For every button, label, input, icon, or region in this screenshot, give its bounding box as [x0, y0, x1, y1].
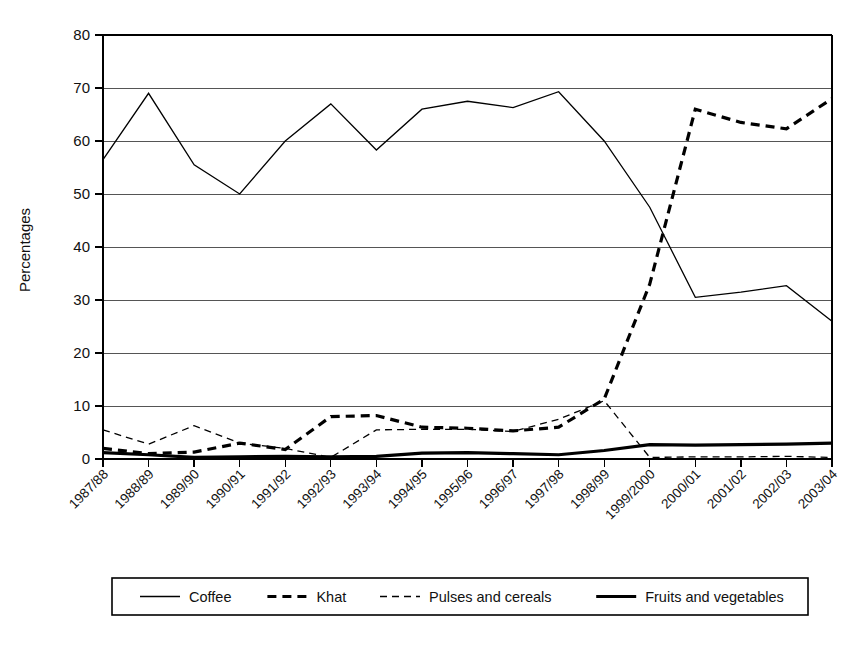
x-axis-ticks: [103, 459, 832, 467]
x-tick-label: 1987/88: [66, 467, 111, 512]
y-tick-label: 40: [73, 238, 90, 255]
x-tick-label: 2003/04: [795, 466, 840, 511]
y-tick-label: 70: [73, 79, 90, 96]
x-tick-label: 1993/94: [339, 466, 384, 511]
y-tick-label: 80: [73, 26, 90, 43]
x-tick-label: 2001/02: [704, 467, 749, 512]
legend: CoffeeKhatPulses and cerealsFruits and v…: [112, 578, 808, 615]
y-tick-label: 60: [73, 132, 90, 149]
x-tick-label: 2000/01: [658, 467, 703, 512]
x-tick-label: 1998/99: [567, 467, 612, 512]
legend-label: Pulses and cereals: [429, 589, 552, 605]
series-line-fruits-and-vegetables: [103, 443, 832, 457]
x-tick-label: 1999/2000: [602, 467, 658, 523]
gridlines: [103, 35, 832, 406]
legend-label: Fruits and vegetables: [645, 589, 784, 605]
x-tick-label: 1988/89: [112, 467, 157, 512]
series-line-khat: [103, 99, 832, 454]
x-tick-label: 1989/90: [157, 467, 202, 512]
y-axis-ticks: 01020304050607080: [73, 26, 103, 467]
y-axis-title: Percentages: [16, 208, 33, 292]
x-tick-label: 1997/98: [522, 467, 567, 512]
x-tick-label: 1990/91: [203, 467, 248, 512]
y-tick-label: 30: [73, 291, 90, 308]
x-tick-label: 1992/93: [294, 467, 339, 512]
y-tick-label: 50: [73, 185, 90, 202]
legend-label: Coffee: [189, 589, 231, 605]
x-axis-labels: 1987/881988/891989/901990/911991/921992/…: [66, 466, 840, 522]
chart-container: 01020304050607080 1987/881988/891989/901…: [0, 0, 849, 650]
x-tick-label: 1991/92: [248, 467, 293, 512]
series-line-coffee: [103, 92, 832, 321]
x-tick-label: 1996/97: [476, 467, 521, 512]
x-tick-label: 1994/95: [385, 467, 430, 512]
x-tick-label: 2002/03: [749, 467, 794, 512]
y-tick-label: 10: [73, 397, 90, 414]
y-tick-label: 0: [82, 450, 90, 467]
series-lines: [103, 92, 832, 458]
legend-label: Khat: [316, 589, 346, 605]
y-tick-label: 20: [73, 344, 90, 361]
x-tick-label: 1995/96: [430, 467, 475, 512]
line-chart: 01020304050607080 1987/881988/891989/901…: [0, 0, 849, 650]
